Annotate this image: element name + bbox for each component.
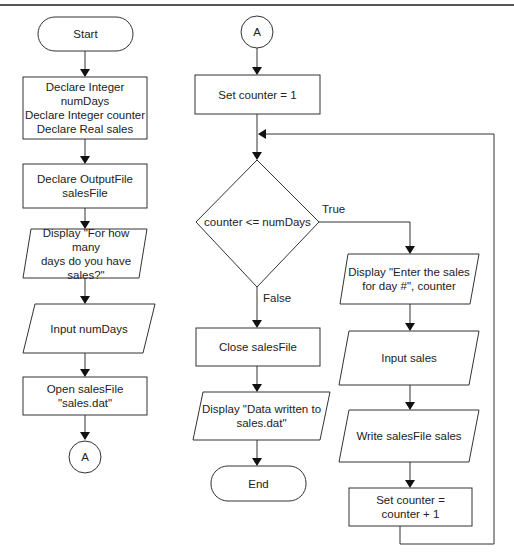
display-prompt-label: Display "For how many days do you have s… bbox=[28, 229, 144, 278]
display-enter-label: Display "Enter the sales for day #", cou… bbox=[344, 254, 474, 304]
display-prompt-line: Display "For how many bbox=[28, 226, 144, 254]
open-file-line: Open salesFile bbox=[47, 382, 124, 396]
end-label: End bbox=[211, 466, 306, 501]
display-done-line: sales.dat" bbox=[236, 416, 286, 430]
display-enter-line: for day #", counter bbox=[362, 279, 456, 293]
input-sales-label: Input sales bbox=[344, 331, 474, 385]
close-file-label: Close salesFile bbox=[196, 328, 320, 366]
increment-line: Set counter = bbox=[376, 493, 445, 507]
true-branch-label: True bbox=[322, 203, 345, 215]
display-prompt-line: sales?" bbox=[67, 268, 104, 282]
start-label: Start bbox=[38, 17, 133, 51]
declare-vars-line: Declare Integer bbox=[46, 80, 125, 94]
decision-label: counter <= numDays bbox=[196, 212, 319, 232]
declare-vars-line: Declare Integer counter bbox=[25, 108, 145, 122]
set-counter-label: Set counter = 1 bbox=[195, 75, 320, 114]
display-enter-line: Display "Enter the sales bbox=[348, 265, 470, 279]
declare-vars-line: Declare Real sales bbox=[37, 122, 134, 136]
declare-file-line: Declare OutputFile bbox=[37, 172, 133, 186]
increment-label: Set counter = counter + 1 bbox=[349, 488, 472, 526]
display-done-line: Display "Data written to bbox=[202, 402, 321, 416]
increment-line: counter + 1 bbox=[382, 507, 440, 521]
display-done-label: Display "Data written to sales.dat" bbox=[198, 392, 325, 440]
declare-file-label: Declare OutputFile salesFile bbox=[23, 164, 147, 208]
input-numdays-label: Input numDays bbox=[29, 304, 149, 353]
open-file-line: "sales.dat" bbox=[58, 396, 112, 410]
connector-a-out-label: A bbox=[69, 441, 101, 473]
false-branch-label: False bbox=[263, 292, 291, 304]
open-file-label: Open salesFile "sales.dat" bbox=[23, 377, 147, 415]
declare-file-line: salesFile bbox=[62, 186, 107, 200]
write-sales-label: Write salesFile sales bbox=[344, 410, 474, 462]
declare-vars-label: Declare Integer numDays Declare Integer … bbox=[23, 77, 147, 139]
declare-vars-line: numDays bbox=[61, 94, 110, 108]
connector-a-in-label: A bbox=[241, 16, 273, 48]
display-prompt-line: days do you have bbox=[41, 254, 131, 268]
